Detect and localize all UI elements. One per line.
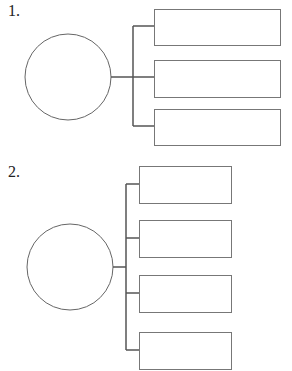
diagram-2-box-4[interactable]: [140, 333, 232, 370]
diagram-2-box-2[interactable]: [140, 221, 232, 258]
diagram-2-box-3[interactable]: [140, 276, 232, 313]
diagram-2-box-1[interactable]: [140, 167, 232, 204]
diagram-1-box-1[interactable]: [155, 10, 281, 46]
diagram-2-main-circle[interactable]: [27, 224, 113, 310]
diagram-1-box-2[interactable]: [155, 61, 281, 98]
diagram-1-box-3[interactable]: [155, 110, 281, 146]
diagram-canvas: [0, 0, 292, 371]
diagram-1-main-circle[interactable]: [25, 34, 111, 120]
